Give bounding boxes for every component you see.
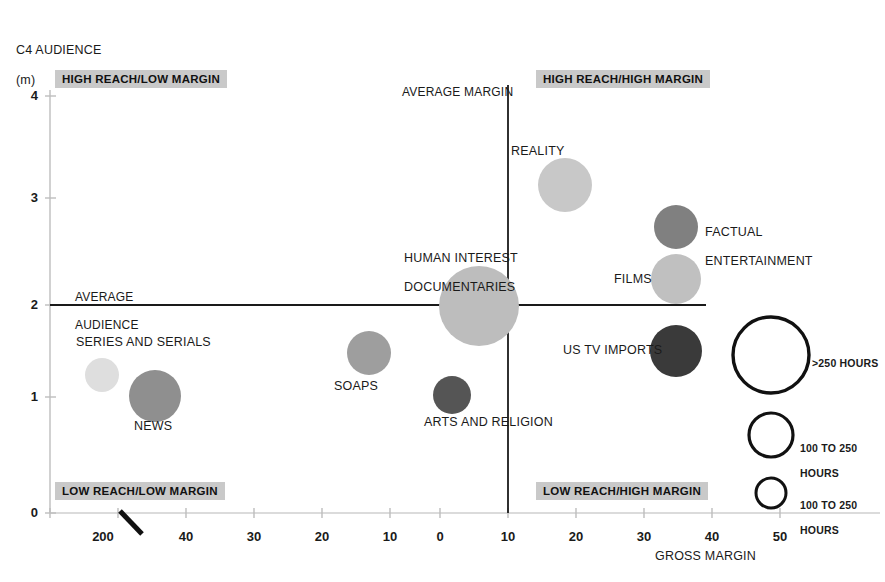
y-tick-4: 4 bbox=[14, 88, 38, 103]
label-human-interest-line2: DOCUMENTARIES bbox=[404, 280, 518, 295]
label-reality: REALITY bbox=[511, 144, 565, 159]
label-factual-entertainment: FACTUAL ENTERTAINMENT bbox=[705, 210, 813, 283]
x-tick-7: 20 bbox=[553, 529, 599, 544]
y-tick-0: 0 bbox=[14, 505, 38, 520]
bubble-arts-and-religion[interactable] bbox=[433, 376, 471, 414]
label-arts-and-religion: ARTS AND RELIGION bbox=[424, 415, 553, 430]
quadrant-low-reach-high-margin: LOW REACH/HIGH MARGIN bbox=[536, 482, 708, 500]
x-tick-10: 50 bbox=[757, 529, 803, 544]
y-tick-1: 1 bbox=[14, 389, 38, 404]
legend-label-large: >250 HOURS bbox=[812, 357, 879, 370]
x-tick-1: 40 bbox=[163, 529, 209, 544]
bubble-factual-entertainment[interactable] bbox=[654, 205, 698, 249]
x-tick-3: 20 bbox=[299, 529, 345, 544]
legend-label-small: 100 TO 250 HOURS bbox=[800, 486, 857, 549]
bubble-news[interactable] bbox=[129, 370, 181, 422]
label-factual-line2: ENTERTAINMENT bbox=[705, 254, 813, 269]
x-tick-8: 30 bbox=[621, 529, 667, 544]
quadrant-high-reach-low-margin: HIGH REACH/LOW MARGIN bbox=[55, 70, 227, 88]
average-audience-label-line2: AUDIENCE bbox=[75, 318, 139, 332]
average-audience-label-line1: AVERAGE bbox=[75, 290, 139, 304]
y-tick-2: 2 bbox=[14, 297, 38, 312]
label-films: FILMS bbox=[614, 272, 652, 287]
average-margin-label: AVERAGE MARGIN bbox=[402, 85, 513, 99]
legend-bubble-large bbox=[733, 317, 809, 393]
legend-bubble-small bbox=[756, 478, 786, 508]
quadrant-high-reach-high-margin: HIGH REACH/HIGH MARGIN bbox=[536, 70, 710, 88]
y-tick-3: 3 bbox=[14, 190, 38, 205]
quadrant-low-reach-low-margin: LOW REACH/LOW MARGIN bbox=[55, 482, 225, 500]
legend-label-medium-line2: HOURS bbox=[800, 467, 857, 480]
label-series-and-serials: SERIES AND SERIALS bbox=[76, 335, 211, 350]
bubble-soaps[interactable] bbox=[347, 331, 391, 375]
label-us-tv-imports: US TV IMPORTS bbox=[563, 343, 662, 358]
label-factual-line1: FACTUAL bbox=[705, 225, 813, 240]
label-soaps: SOAPS bbox=[334, 379, 378, 394]
x-tick-6: 10 bbox=[485, 529, 531, 544]
bubble-films[interactable] bbox=[651, 254, 701, 304]
legend-label-medium-line1: 100 TO 250 bbox=[800, 442, 857, 455]
x-tick-4: 10 bbox=[367, 529, 413, 544]
x-tick-0: 200 bbox=[80, 529, 126, 544]
label-news: NEWS bbox=[134, 419, 172, 434]
x-tick-9: 40 bbox=[689, 529, 735, 544]
legend-bubble-medium bbox=[749, 413, 793, 457]
legend-label-small-line2: HOURS bbox=[800, 524, 857, 537]
x-tick-2: 30 bbox=[231, 529, 277, 544]
legend-label-medium: 100 TO 250 HOURS bbox=[800, 429, 857, 492]
x-axis-title: GROSS MARGIN bbox=[655, 549, 756, 563]
label-human-interest-documentaries: HUMAN INTEREST DOCUMENTARIES bbox=[404, 236, 518, 309]
bubble-series-and-serials[interactable] bbox=[85, 358, 119, 392]
x-tick-5: 0 bbox=[417, 529, 463, 544]
label-human-interest-line1: HUMAN INTEREST bbox=[404, 251, 518, 266]
bubble-chart: C4 AUDIENCE (m) bbox=[0, 0, 885, 582]
bubble-reality[interactable] bbox=[538, 158, 592, 212]
legend-label-small-line1: 100 TO 250 bbox=[800, 499, 857, 512]
